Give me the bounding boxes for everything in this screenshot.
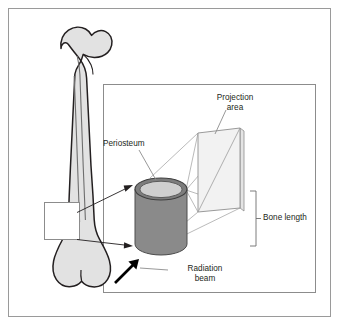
bone-cylinder (135, 178, 187, 255)
radiation-beam-label: Radiation beam (172, 264, 238, 284)
projection-area-label: Projection area (199, 93, 271, 113)
projection-plane-side (240, 128, 244, 211)
bone-projection-diagram (0, 0, 340, 325)
cylinder-periosteum-inner (140, 181, 182, 197)
figure-container: Projection area Periosteum Bone length R… (0, 0, 340, 325)
periosteum-label: Periosteum (103, 139, 165, 149)
shaft-highlight-box (45, 203, 80, 240)
projection-plane (198, 128, 244, 212)
bone-length-label: Bone length (263, 213, 333, 223)
